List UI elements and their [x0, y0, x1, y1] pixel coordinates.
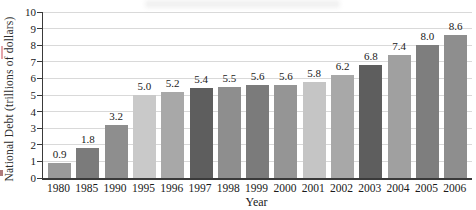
plot-area: 0.91.83.25.05.25.45.55.65.65.86.26.87.48… — [42, 12, 472, 180]
x-tick-label: 2006 — [437, 182, 473, 195]
bar-1998 — [218, 87, 241, 178]
y-tick-label: 8 — [14, 39, 36, 51]
y-tick-mark — [37, 45, 42, 46]
bar-2001 — [303, 82, 326, 178]
y-tick-mark — [37, 12, 42, 13]
y-tick-mark — [37, 144, 42, 145]
bar-value-label: 1.8 — [70, 133, 106, 145]
y-tick-label: 2 — [14, 139, 36, 151]
bar-1990 — [105, 125, 128, 178]
bar-2006 — [444, 35, 467, 178]
y-tick-label: 4 — [14, 106, 36, 118]
scan-showthrough-artifact — [145, 0, 340, 8]
bar-2002 — [331, 75, 354, 178]
bar-value-label: 8.6 — [438, 20, 474, 32]
national-debt-bar-chart: National Debt (trillions of dollars) 0.9… — [0, 0, 476, 210]
y-tick-mark — [37, 178, 42, 179]
y-tick-label: 10 — [14, 6, 36, 18]
bar-1996 — [161, 92, 184, 178]
y-tick-mark — [37, 111, 42, 112]
y-tick-mark — [37, 28, 42, 29]
bar-2003 — [359, 65, 382, 178]
gridline — [43, 12, 472, 13]
y-tick-mark — [37, 161, 42, 162]
bar-2004 — [388, 55, 411, 178]
y-tick-label: 1 — [14, 155, 36, 167]
bar-1980 — [48, 163, 71, 178]
x-axis-title: Year — [42, 195, 471, 210]
bar-2000 — [274, 85, 297, 178]
y-tick-label: 9 — [14, 23, 36, 35]
y-tick-label: 7 — [14, 56, 36, 68]
y-tick-mark — [37, 95, 42, 96]
bar-1995 — [133, 95, 156, 178]
bar-2005 — [416, 45, 439, 178]
y-tick-label: 5 — [14, 89, 36, 101]
y-tick-mark — [37, 128, 42, 129]
bar-1999 — [246, 85, 269, 178]
bar-1985 — [76, 148, 99, 178]
gridline — [43, 28, 472, 29]
bar-1997 — [190, 88, 213, 178]
y-tick-label: 0 — [14, 172, 36, 184]
bar-value-label: 0.9 — [42, 148, 78, 160]
y-tick-label: 6 — [14, 72, 36, 84]
y-tick-mark — [37, 61, 42, 62]
y-tick-mark — [37, 78, 42, 79]
bar-value-label: 3.2 — [98, 110, 134, 122]
y-tick-label: 3 — [14, 122, 36, 134]
